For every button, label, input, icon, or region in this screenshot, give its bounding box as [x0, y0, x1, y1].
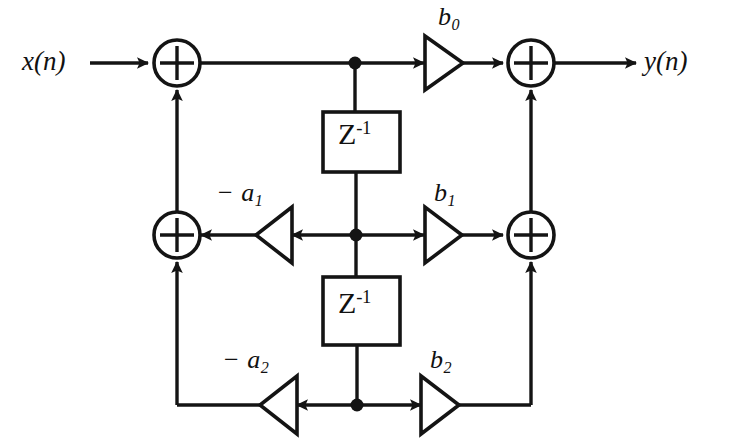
- gain-b1-label: b1: [434, 178, 456, 210]
- input-signal-label: x(n): [22, 46, 65, 77]
- gain-a2-label: − a2: [224, 345, 269, 377]
- adder-mid-left: [154, 212, 200, 258]
- gain-a1-label: − a1: [218, 178, 263, 210]
- gain-b2-subscript: 2: [443, 359, 452, 376]
- gain-b1-base: b: [434, 178, 447, 207]
- gain-b0-subscript: 0: [451, 16, 460, 33]
- gain-b0-base: b: [438, 2, 451, 31]
- gain-a2-subscript: 2: [260, 359, 269, 376]
- delay-block-1-label: Z-1: [338, 117, 371, 151]
- junction-dot-middle: [350, 229, 363, 242]
- gain-a2-sign: −: [224, 345, 247, 374]
- adder-top-right: [508, 40, 554, 86]
- gain-a2-triangle: [260, 376, 297, 434]
- signal-flow-graph: [0, 0, 731, 446]
- gain-b2-label: b2: [430, 345, 452, 377]
- output-signal-label: y(n): [644, 46, 687, 77]
- gain-b0-label: b0: [438, 2, 460, 34]
- delay-2-exponent: -1: [356, 286, 371, 307]
- gain-b2-base: b: [430, 345, 443, 374]
- delay-1-base: Z: [338, 117, 356, 150]
- delay-2-base: Z: [338, 286, 356, 319]
- adder-mid-right: [508, 212, 554, 258]
- gain-a1-base: a: [241, 178, 254, 207]
- gain-b1-triangle: [425, 207, 462, 263]
- gain-a1-triangle: [256, 207, 292, 263]
- delay-1-exponent: -1: [356, 117, 371, 138]
- delay-block-2-label: Z-1: [338, 286, 371, 320]
- junction-dot-top: [349, 57, 362, 70]
- gain-b1-subscript: 1: [447, 192, 456, 209]
- gain-a1-subscript: 1: [254, 192, 263, 209]
- gain-a1-sign: −: [218, 178, 241, 207]
- gain-b0-triangle: [425, 36, 463, 90]
- adder-top-left: [154, 40, 200, 86]
- gain-b2-triangle: [421, 376, 459, 434]
- junction-dot-bottom: [351, 399, 364, 412]
- gain-a2-base: a: [247, 345, 260, 374]
- filter-diagram: x(n) y(n) Z-1 Z-1 b0 b1 b2 − a1 − a2: [0, 0, 731, 446]
